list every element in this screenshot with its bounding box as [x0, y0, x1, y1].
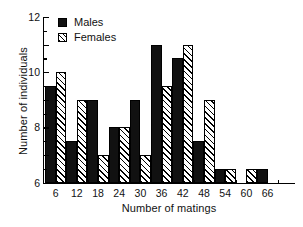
bar-males-30	[130, 100, 141, 183]
y-axis-title: Number of individuals	[17, 21, 29, 181]
y-tick-8: 8	[44, 72, 49, 73]
legend-swatch-males	[58, 18, 67, 27]
bar-females-6	[56, 72, 67, 182]
x-tick-label-66: 66	[262, 188, 274, 199]
bar-males-12	[66, 141, 77, 182]
x-tick-30	[151, 180, 152, 184]
bar-females-36	[162, 86, 173, 183]
bar-females-54	[225, 169, 236, 183]
y-tick-4: 4	[44, 127, 49, 128]
y-tick-label-12: 12	[28, 12, 40, 23]
x-tick-label-24: 24	[113, 188, 125, 199]
legend-label-females: Females	[74, 32, 116, 43]
legend-item-males: Males	[58, 16, 116, 29]
bar-females-30	[140, 155, 151, 183]
x-tick-label-6: 6	[53, 188, 59, 199]
x-tick-label-54: 54	[219, 188, 231, 199]
x-tick-66	[278, 180, 279, 184]
x-tick-label-30: 30	[135, 188, 147, 199]
bar-females-12	[77, 100, 88, 183]
x-tick-label-36: 36	[156, 188, 168, 199]
bar-females-18	[98, 155, 109, 183]
bar-males-24	[109, 127, 120, 182]
bar-females-42	[183, 45, 194, 183]
y-minor-tick-1	[44, 169, 47, 170]
legend-swatch-females	[58, 33, 67, 42]
y-minor-tick-9	[44, 58, 47, 59]
bar-females-24	[119, 127, 130, 182]
bar-females-48	[204, 100, 215, 183]
bar-males-66	[257, 169, 268, 183]
x-tick-label-12: 12	[71, 188, 83, 199]
legend-item-females: Females	[58, 31, 116, 44]
legend-label-males: Males	[74, 17, 103, 28]
y-tick-12: 12	[44, 17, 49, 18]
figure-container: Number of individuals 024681012 61218243…	[0, 0, 303, 227]
bar-females-60	[246, 169, 257, 183]
x-tick-36	[172, 180, 173, 184]
y-tick-label-10: 10	[28, 67, 40, 78]
x-tick-12	[87, 180, 88, 184]
x-tick-18	[109, 180, 110, 184]
x-tick-label-60: 60	[241, 188, 253, 199]
y-minor-tick-3	[44, 141, 47, 142]
y-tick-label-6: 6	[34, 177, 40, 188]
y-tick-label-8: 8	[34, 122, 40, 133]
bar-males-48	[193, 141, 204, 182]
x-tick-48	[215, 180, 216, 184]
x-tick-42	[193, 180, 194, 184]
y-tick-6: 6	[44, 100, 49, 101]
bar-males-36	[151, 45, 162, 183]
caption-remnant	[8, 218, 295, 224]
x-tick-54	[236, 180, 237, 184]
bar-males-18	[87, 100, 98, 183]
y-tick-0: 0	[44, 183, 49, 184]
x-tick-label-18: 18	[92, 188, 104, 199]
y-minor-tick-11	[44, 31, 47, 32]
x-axis-title: Number of matings	[43, 202, 295, 214]
y-minor-tick-7	[44, 86, 47, 87]
y-tick-10: 10	[44, 45, 49, 46]
bar-males-42	[172, 58, 183, 182]
x-tick-label-42: 42	[177, 188, 189, 199]
x-tick-24	[130, 180, 131, 184]
chart-legend: MalesFemales	[58, 16, 116, 46]
bar-males-54	[215, 169, 226, 183]
y-minor-tick-5	[44, 114, 47, 115]
x-tick-6	[66, 180, 67, 184]
x-tick-label-48: 48	[198, 188, 210, 199]
y-tick-2: 2	[44, 155, 49, 156]
x-tick-60	[257, 180, 258, 184]
